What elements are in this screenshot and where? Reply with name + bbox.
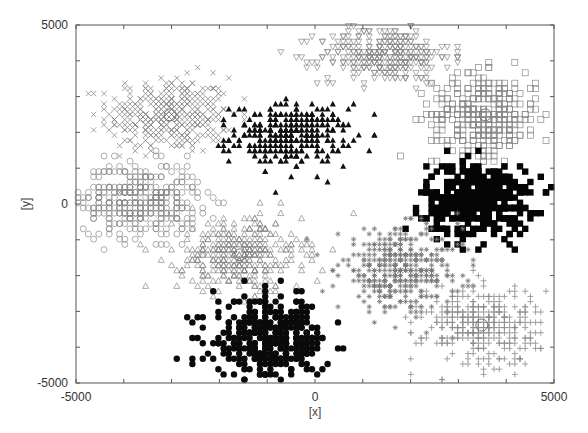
cluster-triangle-filled	[215, 96, 377, 195]
centroid-marker	[476, 319, 488, 331]
y-tick-label: 5000	[41, 18, 68, 32]
data-points	[75, 24, 554, 383]
centroid-marker	[479, 109, 491, 121]
cluster-plus	[403, 267, 549, 382]
x-tick-label: 0	[312, 390, 319, 404]
cluster-square-filled	[402, 148, 554, 253]
scatter-plot: -50000500050000-5000 [x] [y]	[0, 0, 588, 433]
cluster-x	[86, 65, 258, 195]
y-axis-label: [y]	[19, 198, 33, 211]
cluster-triangle-down	[278, 24, 461, 92]
y-tick-label: 0	[61, 197, 68, 211]
x-tick-label: -5000	[61, 390, 92, 404]
x-tick-label: 5000	[541, 390, 568, 404]
cluster-triangle-open	[137, 200, 356, 304]
x-axis-label: [x]	[309, 405, 322, 419]
y-tick-label: -5000	[37, 376, 68, 390]
